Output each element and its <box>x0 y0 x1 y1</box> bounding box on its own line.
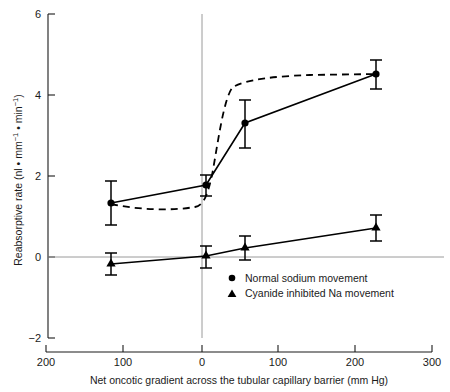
y-axis-title-part-c: ) <box>12 94 24 98</box>
legend-marker-circle-icon <box>229 275 236 282</box>
data-point-circle <box>372 70 379 77</box>
y-axis-title-sup-1: −1 <box>11 133 20 142</box>
legend-label-cyanide-inhibited: Cyanide inhibited Na movement <box>245 287 394 299</box>
data-point-circle <box>241 119 248 126</box>
y-axis-title-sup-2: −1 <box>11 98 20 107</box>
y-tick-label-2: 2 <box>35 170 41 182</box>
y-axis-title: Reabsorptive rate (nl • mm−1 • min−1) <box>11 94 24 266</box>
chart-background <box>0 0 450 392</box>
data-point-circle <box>107 199 114 206</box>
data-point-circle <box>202 181 209 188</box>
y-axis-title-part-b: • min <box>12 106 24 133</box>
y-tick-label-minus2: −2 <box>28 332 41 344</box>
x-axis-title: Net oncotic gradient across the tubular … <box>90 374 388 386</box>
x-tick-label-0: 0 <box>199 356 205 368</box>
x-tick-label-100: 100 <box>269 356 287 368</box>
x-tick-label-minus100: 100 <box>114 356 132 368</box>
y-tick-label-0: 0 <box>35 251 41 263</box>
y-tick-label-6: 6 <box>35 8 41 20</box>
legend-label-normal-sodium: Normal sodium movement <box>245 272 368 284</box>
y-tick-label-4: 4 <box>35 89 41 101</box>
x-tick-label-200: 200 <box>346 356 364 368</box>
chart-figure: 6 4 2 0 −2 Reabsorptive rate (nl • mm−1 … <box>0 0 450 392</box>
svg-text:Reabsorptive rate (nl • mm−1 •: Reabsorptive rate (nl • mm−1 • min−1) <box>11 94 24 266</box>
x-tick-label-minus200: 200 <box>37 356 55 368</box>
reabsorptive-rate-line-chart: 6 4 2 0 −2 Reabsorptive rate (nl • mm−1 … <box>0 0 450 392</box>
y-axis-title-part-a: Reabsorptive rate (nl • mm <box>12 141 24 266</box>
x-tick-label-300: 300 <box>423 356 441 368</box>
